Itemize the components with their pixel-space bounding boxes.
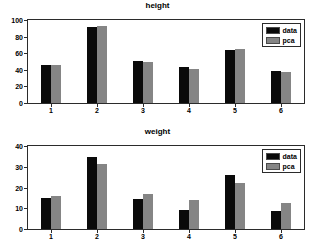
bar-data-1 bbox=[41, 65, 51, 103]
y-axis-tick-label: 40 bbox=[15, 66, 23, 73]
bar-data-2 bbox=[87, 27, 97, 103]
legend-swatch-data-icon bbox=[266, 27, 280, 34]
bar-pca-3 bbox=[143, 62, 153, 104]
y-axis-tick bbox=[24, 37, 28, 38]
bar-data-5 bbox=[225, 50, 235, 103]
bar-data-1 bbox=[41, 198, 51, 229]
legend-swatch-pca-icon bbox=[266, 163, 280, 170]
bar-pca-5 bbox=[235, 183, 245, 229]
bar-pca-5 bbox=[235, 49, 245, 103]
bar-data-3 bbox=[133, 199, 143, 229]
y-axis-tick bbox=[24, 208, 28, 209]
bar-pca-3 bbox=[143, 194, 153, 229]
bar-pca-6 bbox=[281, 72, 291, 103]
y-axis-tick-label: 30 bbox=[15, 163, 23, 170]
y-axis-tick-label: 40 bbox=[15, 143, 23, 150]
y-axis-tick-label: 0 bbox=[19, 226, 23, 233]
y-axis-tick bbox=[24, 53, 28, 54]
bar-data-4 bbox=[179, 210, 189, 229]
figure-bar-chart-pair: height data pca 020406080100123456 weigh… bbox=[0, 0, 315, 251]
bar-data-6 bbox=[271, 71, 281, 103]
legend-swatch-data-icon bbox=[266, 153, 280, 160]
legend-swatch-pca-icon bbox=[266, 37, 280, 44]
plot-area-weight: data pca 010203040123456 bbox=[27, 145, 305, 230]
y-axis-tick-label: 10 bbox=[15, 205, 23, 212]
y-axis-tick-label: 80 bbox=[15, 33, 23, 40]
bar-data-4 bbox=[179, 67, 189, 103]
x-axis-tick-label: 5 bbox=[233, 107, 237, 115]
bar-data-2 bbox=[87, 157, 97, 229]
y-axis-tick bbox=[24, 146, 28, 147]
x-axis-tick-label: 2 bbox=[95, 107, 99, 115]
chart-title-height: height bbox=[0, 1, 315, 11]
legend-label-data: data bbox=[283, 27, 297, 34]
y-axis-tick bbox=[24, 20, 28, 21]
x-axis-tick-label: 4 bbox=[187, 107, 191, 115]
y-axis-tick-label: 60 bbox=[15, 50, 23, 57]
legend-label-pca: pca bbox=[283, 37, 295, 44]
bar-pca-2 bbox=[97, 26, 107, 103]
y-axis-tick-label: 20 bbox=[15, 83, 23, 90]
x-axis-tick-label: 5 bbox=[233, 233, 237, 241]
chart-title-weight: weight bbox=[0, 127, 315, 137]
x-axis-tick-label: 6 bbox=[279, 107, 283, 115]
legend-entry-pca: pca bbox=[266, 162, 297, 170]
bar-pca-4 bbox=[189, 69, 199, 103]
x-axis-tick-label: 6 bbox=[279, 233, 283, 241]
bar-pca-2 bbox=[97, 164, 107, 229]
x-axis-tick-label: 2 bbox=[95, 233, 99, 241]
legend-label-data: data bbox=[283, 153, 297, 160]
x-axis-tick-label: 3 bbox=[141, 233, 145, 241]
bar-data-3 bbox=[133, 61, 143, 103]
y-axis-tick bbox=[24, 70, 28, 71]
x-axis-tick-label: 1 bbox=[49, 107, 53, 115]
y-axis-tick-label: 100 bbox=[11, 17, 23, 24]
y-axis-tick bbox=[24, 188, 28, 189]
x-axis-tick-label: 3 bbox=[141, 107, 145, 115]
y-axis-tick-label: 0 bbox=[19, 100, 23, 107]
y-axis-tick bbox=[24, 229, 28, 230]
plot-area-height: data pca 020406080100123456 bbox=[27, 19, 305, 104]
legend-height: data pca bbox=[262, 23, 301, 47]
bar-pca-1 bbox=[51, 196, 61, 229]
legend-label-pca: pca bbox=[283, 163, 295, 170]
y-axis-tick bbox=[24, 86, 28, 87]
x-axis-tick-label: 1 bbox=[49, 233, 53, 241]
y-axis-tick bbox=[24, 167, 28, 168]
legend-weight: data pca bbox=[262, 149, 301, 173]
x-axis-tick-label: 4 bbox=[187, 233, 191, 241]
legend-entry-data: data bbox=[266, 26, 297, 34]
y-axis-tick bbox=[24, 103, 28, 104]
bar-data-5 bbox=[225, 175, 235, 229]
bar-pca-6 bbox=[281, 203, 291, 229]
chart-panel-height: height data pca 020406080100123456 bbox=[0, 0, 315, 125]
chart-panel-weight: weight data pca 010203040123456 bbox=[0, 126, 315, 251]
legend-entry-pca: pca bbox=[266, 36, 297, 44]
bar-pca-1 bbox=[51, 65, 61, 103]
y-axis-tick-label: 20 bbox=[15, 184, 23, 191]
bar-pca-4 bbox=[189, 200, 199, 229]
legend-entry-data: data bbox=[266, 152, 297, 160]
bar-data-6 bbox=[271, 211, 281, 229]
